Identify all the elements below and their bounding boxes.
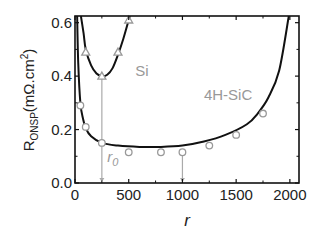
circle-marker-icon xyxy=(77,102,84,109)
x-tick-label: 0 xyxy=(71,186,79,203)
circle-marker-icon xyxy=(233,132,240,139)
y-tick-label: 0.0 xyxy=(51,174,72,191)
circle-marker-icon xyxy=(82,124,89,131)
annotation-label: r0 xyxy=(107,148,119,168)
circle-marker-icon xyxy=(99,140,106,147)
y-label-close: ) xyxy=(20,49,37,54)
y-tick-label: 0.6 xyxy=(51,14,72,31)
circle-marker-icon xyxy=(158,149,165,156)
x-tick-label: 500 xyxy=(116,186,141,203)
chart-svg: 05001000150020000.00.20.40.6 Si4H-SiCr0 … xyxy=(0,0,317,231)
y-label-sub: ONSP xyxy=(29,112,40,141)
circle-marker-icon xyxy=(125,149,132,156)
y-tick-label: 0.2 xyxy=(51,121,72,138)
curves xyxy=(77,16,289,147)
x-tick-label: 1000 xyxy=(166,186,199,203)
chart: 05001000150020000.00.20.40.6 Si4H-SiCr0 … xyxy=(0,0,317,231)
svg-text:RONSP(mΩ.cm2): RONSP(mΩ.cm2) xyxy=(19,49,40,152)
circle-marker-icon xyxy=(260,110,267,117)
y-label-unit: (mΩ.cm xyxy=(20,59,37,112)
x-axis-label: r xyxy=(184,211,191,230)
annotation-label: 4H-SiC xyxy=(204,86,253,103)
y-label-main: R xyxy=(20,140,37,151)
x-tick-label: 2000 xyxy=(273,186,306,203)
y-tick-label: 0.4 xyxy=(51,67,72,84)
model-curve xyxy=(77,16,289,147)
model-curve xyxy=(81,16,130,76)
circle-marker-icon xyxy=(179,149,186,156)
annotation-label: Si xyxy=(135,62,148,79)
triangle-marker-icon xyxy=(82,48,90,55)
x-tick-label: 1500 xyxy=(219,186,252,203)
circle-marker-icon xyxy=(206,142,213,149)
tick-labels: 05001000150020000.00.20.40.6 xyxy=(51,14,306,203)
y-axis-label: RONSP(mΩ.cm2) xyxy=(19,49,40,152)
